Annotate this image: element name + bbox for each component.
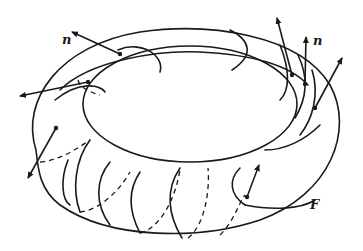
back-rim <box>60 52 308 90</box>
label-normal-right: n <box>313 34 322 47</box>
inner-hole <box>83 46 297 162</box>
normal-vector-right-3 <box>315 58 342 108</box>
torus-diagram: n n F <box>0 0 363 251</box>
normal-vector-top-left <box>72 32 120 54</box>
torus-drawing <box>0 0 363 251</box>
label-surface-f: F <box>310 198 319 211</box>
normal-vector-right-2 <box>305 37 306 84</box>
normal-vector-left <box>20 82 88 96</box>
label-normal-left: n <box>62 33 71 46</box>
normal-vector-bottom-right <box>247 165 259 197</box>
outer-contour <box>33 29 340 234</box>
